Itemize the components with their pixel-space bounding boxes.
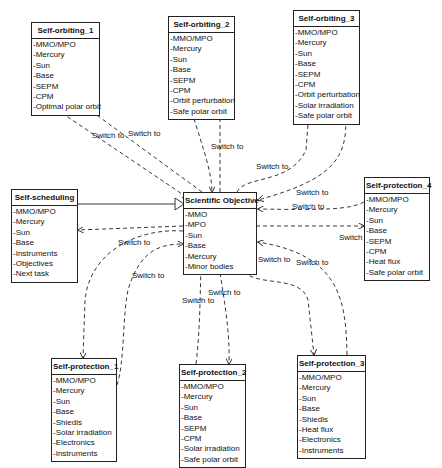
attribute: Solar irradiation [181, 444, 244, 454]
edge-label: Switch to [256, 162, 288, 171]
attribute: SEPM [181, 424, 244, 434]
node-title: Self-scheduling [12, 190, 77, 206]
attribute: Instruments [13, 249, 76, 259]
edge-label: Switch to [92, 131, 124, 140]
node-title: Self-protection_1 [52, 359, 116, 375]
attribute: Sun [295, 49, 358, 59]
attribute: Solar irradiation [295, 101, 358, 111]
attribute: Sun [170, 55, 233, 65]
node-attributes: MMO/MPO Mercury Sun Base SEPM CPM Orbit … [294, 27, 359, 124]
edge-label: Switch to [211, 142, 243, 151]
edge-sp2-to-sci [196, 266, 201, 364]
attribute: MMO/MPO [53, 376, 115, 386]
attribute: CPM [366, 247, 428, 257]
node-title: Self-protection_2 [180, 365, 245, 381]
node-attributes: MMO MPO Sun Base Mercury Minor bodies [184, 209, 256, 274]
node-title: Self-protection_4 [365, 178, 429, 194]
attribute: Next task [13, 269, 76, 279]
edge-label: Switch to [132, 271, 164, 280]
edge-sci-to-sp2 [219, 266, 229, 364]
node-attributes: MMO/MPO Mercury Sun Base SEPM CPM Solar … [180, 381, 245, 467]
attribute: Sun [13, 228, 76, 238]
attribute: Shiedls [53, 418, 115, 428]
attribute: CPM [170, 86, 233, 96]
edge-label: Switch to [292, 202, 324, 211]
node-self-orbiting-1[interactable]: Self-orbiting_1 MMO/MPO Mercury Sun Base… [31, 22, 100, 116]
attribute: MMO/MPO [13, 207, 76, 217]
edge-label: Switch to [296, 188, 328, 197]
attribute: Mercury [185, 252, 255, 262]
edge-label: Switch to [128, 129, 160, 138]
node-self-protection-2[interactable]: Self-protection_2 MMO/MPO Mercury Sun Ba… [179, 364, 246, 468]
edge-sp1-to-sci [117, 244, 183, 385]
node-scientific-objective[interactable]: Scientific Objective MMO MPO Sun Base Me… [183, 192, 257, 275]
attribute: Sun [366, 216, 428, 226]
edge-sci-to-sp3 [240, 266, 314, 355]
attribute: CPM [181, 434, 244, 444]
attribute: MMO/MPO [181, 382, 244, 392]
edge-label: Switch to [118, 238, 150, 247]
attribute: CPM [33, 92, 98, 102]
attribute: Safe polar orbit [295, 111, 358, 121]
node-title: Self-protection_3 [298, 356, 365, 372]
attribute: Mercury [33, 50, 98, 60]
edge-ss-to-sci-generalization [78, 198, 184, 210]
edge-sci-to-ss [78, 226, 183, 230]
edge-sci-to-sp1 [83, 231, 183, 358]
node-self-protection-3[interactable]: Self-protection_3 MMO/MPO Mercury Sun Ba… [297, 355, 366, 459]
attribute: CPM [295, 80, 358, 90]
attribute: Orbit perturbation [170, 96, 233, 106]
attribute: Mercury [53, 386, 115, 396]
node-title: Self-orbiting_1 [32, 23, 99, 39]
node-self-orbiting-2[interactable]: Self-orbiting_2 MMO/MPO Mercury Sun Base… [168, 16, 235, 120]
attribute: Base [33, 71, 98, 81]
node-title: Self-orbiting_3 [294, 11, 359, 27]
edge-so3-to-sci [258, 112, 346, 200]
node-title: Scientific Objective [184, 193, 256, 209]
attribute: Base [366, 226, 428, 236]
node-title: Self-orbiting_2 [169, 17, 234, 33]
attribute: Sun [53, 397, 115, 407]
node-self-orbiting-3[interactable]: Self-orbiting_3 MMO/MPO Mercury Sun Base… [293, 10, 360, 125]
attribute: MMO/MPO [170, 34, 233, 44]
node-self-protection-4[interactable]: Self-protection_4 MMO/MPO Mercury Sun Ba… [364, 177, 430, 281]
attribute: Safe polar orbit [181, 455, 244, 465]
edge-label: Switch to [182, 296, 214, 305]
attribute: Safe polar orbit [170, 107, 233, 117]
attribute: Heat flux [366, 257, 428, 267]
node-attributes: MMO/MPO Mercury Sun Base SEPM CPM Heat f… [365, 194, 429, 280]
attribute: Base [53, 407, 115, 417]
attribute: MMO/MPO [366, 195, 428, 205]
node-self-protection-1[interactable]: Self-protection_1 MMO/MPO Mercury Sun Ba… [51, 358, 117, 462]
attribute: MMO/MPO [33, 40, 98, 50]
attribute: SEPM [295, 70, 358, 80]
attribute: MMO/MPO [299, 373, 364, 383]
attribute: Shiedls [299, 415, 364, 425]
attribute: SEPM [33, 82, 98, 92]
attribute: Instruments [53, 449, 115, 459]
node-self-scheduling[interactable]: Self-scheduling MMO/MPO Mercury Sun Base… [11, 189, 78, 283]
attribute: MMO/MPO [295, 28, 358, 38]
attribute: Instruments [299, 446, 364, 456]
attribute: Electronics [299, 435, 364, 445]
attribute: Mercury [13, 217, 76, 227]
attribute: Sun [185, 231, 255, 241]
attribute: Solar irradiation [53, 428, 115, 438]
attribute: SEPM [170, 76, 233, 86]
attribute: Sun [33, 61, 98, 71]
attribute: MPO [185, 220, 255, 230]
node-attributes: MMO/MPO Mercury Sun Base Shiedls Solar i… [52, 375, 116, 461]
attribute: Electronics [53, 438, 115, 448]
attribute: Minor bodies [185, 262, 255, 272]
node-attributes: MMO/MPO Mercury Sun Base SEPM CPM Orbit … [169, 33, 234, 119]
node-attributes: MMO/MPO Mercury Sun Base Instruments Obj… [12, 206, 77, 282]
attribute: Base [295, 59, 358, 69]
attribute: Mercury [170, 44, 233, 54]
edge-label: Switch to [258, 255, 290, 264]
attribute: Sun [181, 403, 244, 413]
attribute: Safe polar orbit [366, 268, 428, 278]
attribute: Mercury [181, 392, 244, 402]
attribute: Mercury [366, 205, 428, 215]
attribute: Objectives [13, 259, 76, 269]
attribute: Base [299, 404, 364, 414]
